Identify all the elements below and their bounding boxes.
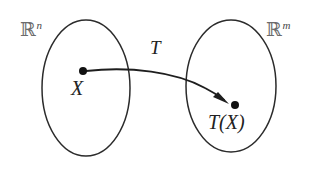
transformation-label: T [150, 38, 161, 57]
mapping-arrow-curve [86, 69, 224, 100]
source-point-dot [79, 67, 87, 75]
domain-set-label: ℝn [20, 20, 42, 39]
codomain-set-label: ℝm [266, 20, 291, 39]
codomain-set-superscript: m [283, 19, 291, 31]
image-point-dot [231, 101, 239, 109]
image-point-label: T(X) [208, 112, 245, 132]
source-point-label: X [71, 78, 83, 98]
domain-set-symbol: ℝ [20, 18, 36, 40]
domain-set-ellipse [42, 20, 130, 156]
linear-transformation-figure: ℝn ℝm T X T(X) [0, 0, 317, 172]
domain-set-superscript: n [37, 19, 43, 31]
codomain-set-symbol: ℝ [266, 18, 282, 40]
